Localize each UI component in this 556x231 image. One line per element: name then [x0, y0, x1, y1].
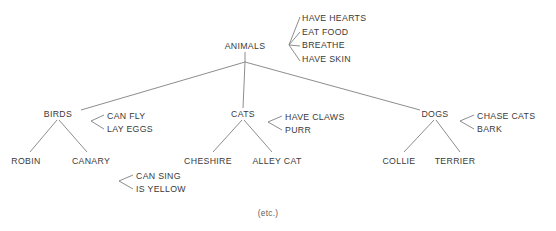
edge-animals-birds	[81, 62, 245, 110]
property-dogs-bark[interactable]: BARK	[477, 123, 502, 134]
property-birds-can-fly[interactable]: CAN FLY	[107, 110, 146, 121]
node-dogs[interactable]: DOGS	[421, 108, 448, 119]
property-cats-purr[interactable]: PURR	[285, 124, 311, 135]
node-birds[interactable]: BIRDS	[44, 108, 72, 119]
edge-animals-cats	[243, 62, 245, 108]
property-canary-can-sing[interactable]: CAN SING	[136, 170, 181, 181]
property-animals-have-hearts[interactable]: HAVE HEARTS	[302, 12, 366, 23]
node-terrier[interactable]: TERRIER	[435, 155, 476, 166]
edge-cats-prop-1	[268, 122, 282, 130]
edge-animals-prop-1	[289, 32, 300, 45]
node-animals[interactable]: ANIMALS	[225, 40, 266, 51]
node-collie[interactable]: COLLIE	[382, 155, 415, 166]
edge-dogs-terrier	[436, 120, 460, 152]
etc-note: (etc.)	[258, 208, 279, 218]
edge-animals-dogs	[245, 62, 420, 110]
edge-animals-prop-3	[289, 45, 300, 61]
property-birds-lay-eggs[interactable]: LAY EGGS	[107, 123, 153, 134]
edge-canary-prop-1	[119, 181, 133, 189]
node-robin[interactable]: ROBIN	[11, 155, 40, 166]
edge-birds-prop-1	[91, 121, 104, 129]
edge-birds-canary	[59, 120, 87, 152]
node-cheshire[interactable]: CHESHIRE	[184, 155, 232, 166]
property-dogs-chase-cats[interactable]: CHASE CATS	[477, 110, 535, 121]
property-animals-eat-food[interactable]: EAT FOOD	[302, 26, 348, 37]
diagram-edges	[0, 0, 556, 231]
semantic-network-diagram: ANIMALS BIRDS CATS DOGS ROBIN CANARY CHE…	[0, 0, 556, 231]
node-cats[interactable]: CATS	[231, 108, 255, 119]
edge-animals-prop-2	[289, 45, 300, 46]
edge-cats-prop-0	[268, 116, 282, 122]
property-animals-breathe[interactable]: BREATHE	[302, 39, 345, 50]
property-animals-have-skin[interactable]: HAVE SKIN	[302, 53, 351, 64]
node-alley-cat[interactable]: ALLEY CAT	[252, 155, 301, 166]
edge-canary-prop-0	[119, 175, 133, 181]
edge-birds-prop-0	[91, 115, 104, 121]
property-cats-have-claws[interactable]: HAVE CLAWS	[285, 111, 345, 122]
edge-dogs-prop-0	[460, 115, 474, 121]
edge-dogs-collie	[404, 120, 434, 152]
edge-birds-robin	[30, 120, 57, 152]
edge-animals-prop-0	[289, 17, 300, 45]
edge-dogs-prop-1	[460, 121, 474, 129]
property-canary-is-yellow[interactable]: IS YELLOW	[136, 183, 186, 194]
edge-cats-cheshire	[213, 120, 242, 152]
edge-cats-alleycat	[244, 120, 272, 152]
node-canary[interactable]: CANARY	[72, 155, 110, 166]
